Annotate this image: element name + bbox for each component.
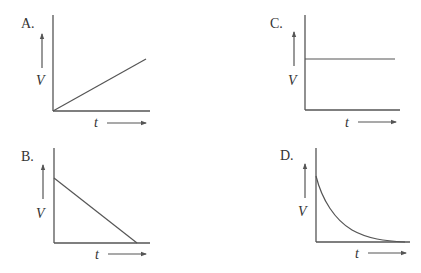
x-label: t <box>345 115 350 130</box>
panel-label: D. <box>280 148 294 163</box>
panel-c: C. V t <box>270 15 400 130</box>
x-label: t <box>94 115 99 130</box>
graph-curve <box>316 176 405 242</box>
x-label: t <box>355 246 360 261</box>
y-label: V <box>36 206 46 221</box>
graph-options-diagram: A. V t C. V t B. V t D. V t <box>0 0 421 273</box>
graph-line <box>54 178 137 243</box>
panel-label: B. <box>21 149 34 164</box>
y-label: V <box>36 73 46 88</box>
panel-d: D. V t <box>280 148 410 261</box>
panel-label: A. <box>21 16 35 31</box>
y-label: V <box>288 73 298 88</box>
panel-a: A. V t <box>21 15 150 130</box>
y-label: V <box>298 204 308 219</box>
panel-label: C. <box>270 16 283 31</box>
graph-line <box>53 59 146 111</box>
x-label: t <box>95 247 100 262</box>
panel-b: B. V t <box>21 148 150 262</box>
